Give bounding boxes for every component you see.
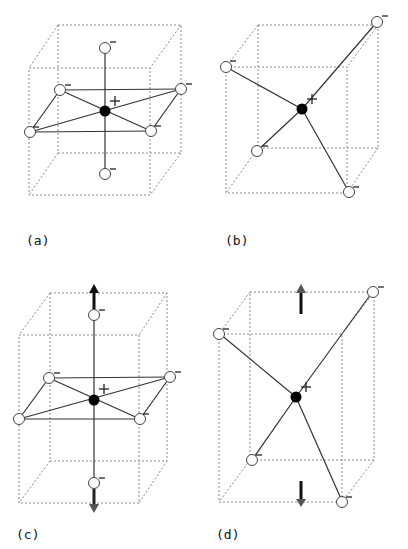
anion-signs — [223, 287, 384, 497]
anion-back-right — [176, 84, 187, 95]
cation-center — [89, 395, 100, 406]
arrow-up-head-icon — [89, 284, 99, 293]
anion-front-left — [14, 414, 25, 425]
panel-label-a: (a) — [26, 233, 49, 248]
cation-center — [297, 104, 308, 115]
anion-bottom-left — [247, 455, 258, 466]
anion-bottom — [100, 169, 111, 180]
anion-top-right — [372, 17, 383, 28]
anion-signs — [33, 42, 192, 169]
anion-bottom-left — [252, 146, 263, 157]
arrow-up-head-icon — [296, 284, 306, 293]
anion-top-right — [368, 287, 379, 298]
cation-plus-sign — [99, 384, 109, 394]
anion-left — [214, 329, 225, 340]
panel-c: (c) — [14, 284, 182, 542]
anion-bottom-right — [344, 187, 355, 198]
anion-bottom — [89, 478, 100, 489]
anion-top — [100, 43, 111, 54]
anion-back-right — [165, 372, 176, 383]
anion-front-right — [135, 414, 146, 425]
anion-bottom-right — [337, 497, 348, 508]
anion-back-left — [44, 373, 55, 384]
cation-plus-sign — [301, 382, 311, 392]
cation-plus-sign — [110, 96, 120, 106]
anion-front-left — [25, 127, 36, 138]
cation-center — [291, 392, 302, 403]
panel-b: (b) — [221, 16, 389, 248]
arrow-down-head-icon — [296, 499, 306, 507]
anion-left — [221, 62, 232, 73]
coordination-diagram: (a) (b) — [0, 0, 408, 549]
arrow-down-head-icon — [89, 504, 99, 513]
panel-d: (d) — [214, 284, 385, 542]
panel-label-d: (d) — [216, 527, 239, 542]
anion-front-right — [146, 126, 157, 137]
panel-a: (a) — [25, 25, 193, 248]
anion-top — [89, 310, 100, 321]
cation-plus-sign — [307, 94, 317, 104]
cation-center — [100, 106, 111, 117]
panel-label-c: (c) — [16, 527, 39, 542]
panel-label-b: (b) — [225, 233, 248, 248]
anion-back-left — [55, 85, 66, 96]
anion-signs — [54, 310, 181, 478]
